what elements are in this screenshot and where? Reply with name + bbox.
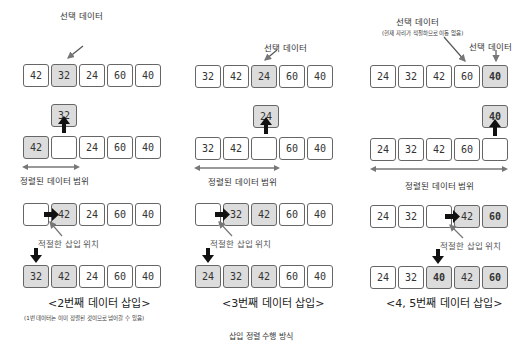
down-arrow-icon [202, 248, 214, 263]
insert-pointer-icon [50, 222, 62, 236]
insert-pointer-icon [219, 222, 232, 236]
insert-pointer-icon [450, 225, 463, 238]
up-arrow-icon [489, 119, 501, 136]
up-arrow-icon [260, 117, 272, 134]
right-arrow-icon [44, 208, 59, 221]
right-arrow-icon [215, 208, 230, 221]
pointer-arrow-icon [444, 37, 465, 61]
pointer-arrow-icon [68, 46, 83, 58]
range-arrow-icon [194, 165, 280, 171]
down-arrow-icon [432, 249, 444, 264]
pointer-arrow-icon [265, 50, 277, 60]
right-arrow-icon [445, 210, 460, 223]
down-arrow-icon [30, 248, 42, 263]
up-arrow-icon [58, 116, 70, 133]
range-arrow-icon [22, 164, 80, 170]
arrows-layer [0, 0, 531, 361]
range-arrow-icon [370, 166, 508, 172]
